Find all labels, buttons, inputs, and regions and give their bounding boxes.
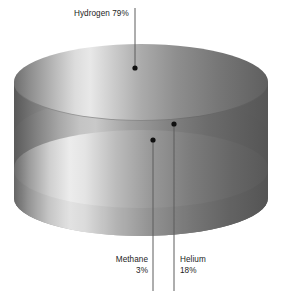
label-helium: Helium 18%	[180, 255, 240, 276]
divider-ellipse-lower	[14, 130, 268, 206]
label-helium-percent: 18%	[180, 266, 240, 277]
label-hydrogen: Hydrogen 79%	[74, 9, 129, 20]
dot-hydrogen	[132, 65, 137, 70]
cylinder-chart-graphic	[0, 0, 281, 297]
label-methane-name: Methane	[116, 255, 148, 264]
top-surface-hydrogen	[14, 44, 268, 120]
dot-helium	[171, 121, 176, 126]
label-hydrogen-text: Hydrogen 79%	[74, 9, 129, 18]
label-methane-percent: 3%	[88, 266, 148, 277]
label-helium-name: Helium	[180, 255, 206, 264]
dot-methane	[150, 137, 155, 142]
chart-figure: Hydrogen 79% Methane 3% Helium 18%	[0, 0, 281, 297]
label-methane: Methane 3%	[88, 255, 148, 276]
